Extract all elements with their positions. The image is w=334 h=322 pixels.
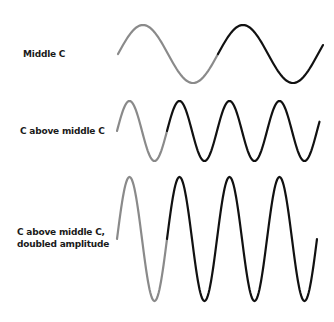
wave-remaining-cycles [167, 177, 317, 301]
wave-first-cycle [117, 177, 167, 301]
wave-remaining-cycles [167, 101, 320, 161]
wave-first-cycle [117, 101, 167, 161]
wave-c-above-middle-c [117, 101, 320, 161]
wave-middle-c [118, 25, 323, 83]
waves-canvas [0, 0, 334, 322]
wave-first-cycle [118, 25, 218, 83]
wave-c-above-middle-c-doubled [117, 177, 317, 301]
wave-remaining-cycles [218, 25, 323, 83]
